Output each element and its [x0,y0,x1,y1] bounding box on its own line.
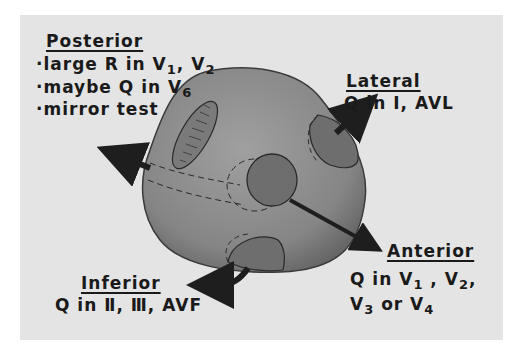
posterior-title: Posterior [46,30,143,52]
anterior-title: Anterior [387,240,474,262]
posterior-bullet-3: ·mirror test [36,98,159,120]
lateral-leads: Q in I, AVL [344,92,454,114]
inferior-title: Inferior [81,272,161,294]
anterior-leads-line-1: Q in V1 , V2, [350,268,476,290]
anterior-leads-line-2: V3 or V4 [350,293,434,315]
inferior-leads: Q in Ⅱ, Ⅲ, AVF [55,294,202,316]
posterior-bullet-2: ·maybe Q in V6 [36,76,192,98]
lateral-title: Lateral [346,70,421,92]
posterior-bullet-1: ·large R in V1, V2 [36,53,215,75]
anterior-region [247,154,297,206]
